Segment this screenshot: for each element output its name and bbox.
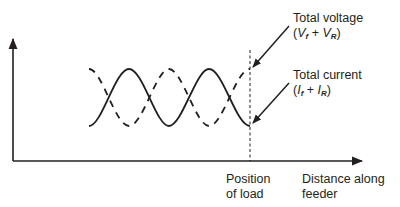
voltage-pointer-arrow <box>253 26 289 67</box>
total-voltage-title: Total voltage <box>293 11 363 26</box>
total-voltage-formula: (Vf + VR) <box>293 26 363 44</box>
symbol-v-forward: V <box>297 26 305 40</box>
paren-close: ) <box>337 26 341 40</box>
x-axis-label-line-2: feeder <box>302 187 385 202</box>
x-axis-label: Distance along feeder <box>302 172 385 202</box>
load-position-label: Position of load <box>226 172 270 202</box>
total-current-title: Total current <box>293 68 362 83</box>
x-axis-label-line-1: Distance along <box>302 172 385 187</box>
total-current-formula: (If + IR) <box>293 83 362 101</box>
load-label-line-2: of load <box>226 187 270 202</box>
plus-sign: + <box>308 26 322 40</box>
total-voltage-label: Total voltage (Vf + VR) <box>293 11 363 44</box>
total-current-label: Total current (If + IR) <box>293 68 362 101</box>
plus-sign: + <box>303 83 317 97</box>
current-pointer-arrow <box>253 83 289 123</box>
paren-close: ) <box>327 83 331 97</box>
total-current-wave <box>89 69 250 126</box>
total-voltage-wave <box>89 69 250 126</box>
load-label-line-1: Position <box>226 172 270 187</box>
symbol-v-reflected: V <box>322 26 330 40</box>
